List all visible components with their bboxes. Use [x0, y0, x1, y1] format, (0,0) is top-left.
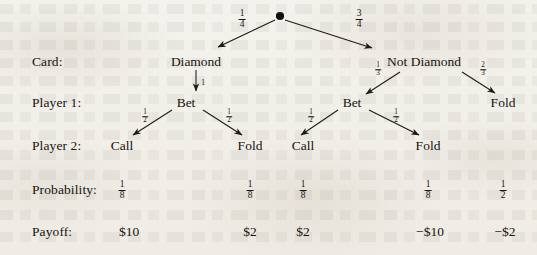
edge-label-chance-not-diamond: 34 [356, 9, 363, 29]
node-p2-fold-1: Fold [238, 138, 263, 154]
probability-value: 18 [119, 180, 126, 200]
edge-bet-left-to-fold [203, 110, 242, 135]
probability-value: 18 [300, 180, 307, 200]
node-p2-call-1: Call [111, 138, 134, 154]
row-label-player2: Player 2: [32, 138, 81, 154]
payoff-value: $2 [296, 224, 310, 240]
figure-canvas: Card: Player 1: Player 2: Probability: P… [0, 0, 537, 255]
edge-bet-left-to-call [133, 110, 172, 135]
edge-label-bet-right-call: 12 [308, 109, 314, 124]
edge-label-bet-right-fold: 12 [393, 109, 399, 124]
probability-value: 18 [247, 180, 254, 200]
edge-bet-right-to-call [301, 110, 338, 135]
node-p2-fold-2: Fold [416, 138, 441, 154]
edge-not-diamond-to-fold [462, 72, 495, 93]
node-card-not-diamond: Not Diamond [387, 54, 461, 70]
node-p2-call-2: Call [292, 138, 315, 154]
payoff-value: −$10 [416, 224, 444, 240]
row-label-probability: Probability: [32, 182, 97, 198]
payoff-value: $2 [243, 224, 257, 240]
edge-chance-to-diamond [218, 20, 275, 47]
edge-label-bet-left-call: 12 [142, 109, 148, 124]
edge-label-chance-diamond: 14 [239, 9, 246, 29]
payoff-value: −$2 [494, 224, 515, 240]
edge-label-bet-left-fold: 12 [226, 109, 232, 124]
row-label-payoff: Payoff: [32, 224, 72, 240]
edge-label-not-diamond-fold: 23 [480, 62, 486, 77]
edge-not-diamond-to-bet [366, 72, 400, 94]
payoff-value: $10 [119, 224, 139, 240]
tree-edges [0, 0, 537, 255]
edge-label-not-diamond-bet: 13 [375, 62, 381, 77]
node-p1-bet-left: Bet [177, 95, 196, 111]
probability-value: 18 [425, 180, 432, 200]
chance-node-dot [276, 12, 284, 20]
node-p1-fold-right: Fold [491, 95, 516, 111]
node-card-diamond: Diamond [171, 54, 221, 70]
row-label-player1: Player 1: [32, 95, 81, 111]
node-p1-bet-right: Bet [343, 95, 362, 111]
row-label-card: Card: [32, 54, 63, 70]
edge-label-diamond-bet: 1 [201, 78, 205, 87]
probability-value: 12 [500, 180, 507, 200]
